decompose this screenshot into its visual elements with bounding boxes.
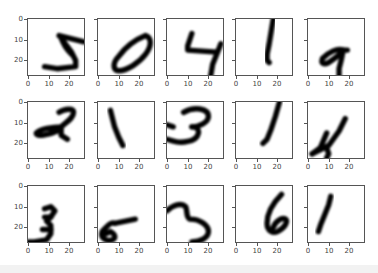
y-tick-label: 0 (9, 99, 23, 106)
digit-image-axes (235, 185, 293, 243)
x-tick (208, 76, 209, 79)
digit-image-axes (166, 101, 224, 159)
digit-panel: 0010102020 (27, 185, 85, 243)
y-tick (232, 60, 235, 61)
digit-image (28, 19, 85, 76)
x-tick (236, 243, 237, 246)
x-tick-label: 20 (270, 164, 284, 171)
digit-panel: 01020 (166, 101, 224, 159)
x-tick-label: 10 (322, 81, 336, 88)
digit-image-axes (27, 18, 85, 76)
x-tick-label: 20 (62, 81, 76, 88)
y-tick (304, 123, 307, 124)
y-tick (94, 227, 97, 228)
x-tick (119, 159, 120, 162)
digit-image-axes (166, 18, 224, 76)
x-tick (69, 159, 70, 162)
y-tick (24, 102, 27, 103)
x-tick-label: 10 (181, 248, 195, 255)
x-tick-label: 20 (62, 164, 76, 171)
y-tick (24, 123, 27, 124)
x-tick-label: 0 (229, 81, 243, 88)
x-tick-label: 10 (112, 248, 126, 255)
y-tick (232, 123, 235, 124)
digit-image (98, 186, 155, 243)
y-tick (24, 143, 27, 144)
x-tick (208, 159, 209, 162)
x-tick (188, 159, 189, 162)
y-tick (94, 19, 97, 20)
x-tick (236, 159, 237, 162)
x-tick (28, 76, 29, 79)
y-tick (24, 207, 27, 208)
digit-stroke (36, 127, 61, 135)
x-tick-label: 0 (160, 81, 174, 88)
x-tick (308, 76, 309, 79)
digit-image-axes (27, 101, 85, 159)
x-tick-label: 20 (201, 81, 215, 88)
digit-stroke (267, 19, 273, 63)
digit-image-axes (166, 185, 224, 243)
x-tick-label: 20 (132, 81, 146, 88)
digit-image (236, 19, 293, 76)
x-tick-label: 0 (229, 164, 243, 171)
x-tick (257, 159, 258, 162)
x-tick-label: 10 (42, 248, 56, 255)
x-tick (139, 243, 140, 246)
y-tick-label: 10 (9, 37, 23, 44)
y-tick-label: 20 (9, 224, 23, 231)
x-tick-label: 10 (181, 164, 195, 171)
digit-image-axes (27, 185, 85, 243)
x-tick (69, 76, 70, 79)
digit-panel: 01020 (166, 185, 224, 243)
digit-stroke (115, 219, 136, 223)
mnist-digit-grid: 0010102020010200102001020010200010102020… (0, 0, 378, 265)
y-tick (232, 143, 235, 144)
digit-panel: 01020 (97, 18, 155, 76)
digit-panel: 01020 (235, 101, 293, 159)
x-tick-label: 0 (91, 81, 105, 88)
x-tick (188, 76, 189, 79)
y-tick (304, 207, 307, 208)
digit-image-axes (235, 101, 293, 159)
x-tick-label: 20 (270, 248, 284, 255)
x-tick-label: 10 (42, 164, 56, 171)
x-tick-label: 0 (301, 81, 315, 88)
y-tick (163, 19, 166, 20)
digit-image (308, 186, 365, 243)
x-tick (329, 76, 330, 79)
x-tick (188, 243, 189, 246)
x-tick (277, 243, 278, 246)
digit-image (28, 102, 85, 159)
x-tick (98, 159, 99, 162)
x-tick (308, 159, 309, 162)
y-tick (94, 143, 97, 144)
digit-image (167, 102, 224, 159)
digit-stroke (102, 223, 115, 241)
digit-image (98, 102, 155, 159)
x-tick (257, 76, 258, 79)
y-tick (163, 102, 166, 103)
digit-stroke (167, 205, 208, 242)
x-tick-label: 0 (160, 164, 174, 171)
x-tick (49, 243, 50, 246)
digit-panel: 01020 (97, 101, 155, 159)
y-tick (232, 227, 235, 228)
digit-panel: 01020 (307, 185, 365, 243)
y-tick-label: 20 (9, 140, 23, 147)
x-tick (28, 243, 29, 246)
x-tick (349, 243, 350, 246)
x-tick (329, 243, 330, 246)
x-tick (28, 159, 29, 162)
digit-image (236, 186, 293, 243)
x-tick (257, 243, 258, 246)
y-tick (163, 227, 166, 228)
digit-image (308, 102, 365, 159)
x-tick (98, 243, 99, 246)
digit-stroke (267, 194, 286, 232)
digit-image (308, 19, 365, 76)
digit-image (167, 186, 224, 243)
digit-stroke (339, 50, 343, 76)
y-tick (94, 60, 97, 61)
digit-stroke (188, 34, 217, 53)
